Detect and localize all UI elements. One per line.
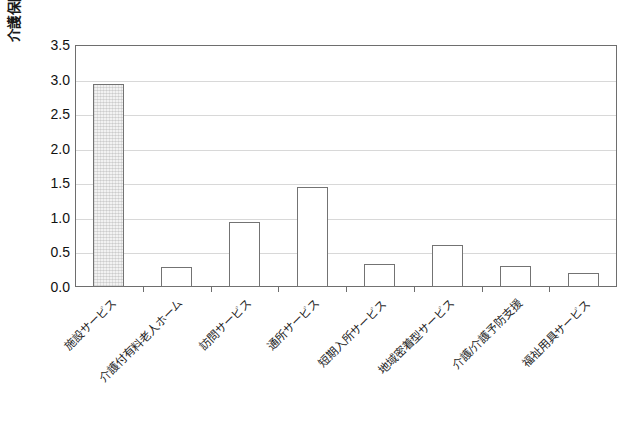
bar-chart: 介護保険費用（兆円） 0.00.51.01.52.02.53.03.5 施設サー…: [0, 0, 636, 423]
y-axis-tick-label: 0.5: [36, 244, 70, 260]
bar: [568, 273, 599, 288]
y-axis-tick-label: 3.0: [36, 72, 70, 88]
x-axis-category-label: 施設サービス: [60, 295, 119, 354]
bar: [500, 266, 531, 287]
y-axis-tick-label: 2.5: [36, 106, 70, 122]
x-axis-category-label: 通所サービス: [263, 295, 322, 354]
bar: [93, 84, 124, 287]
bar: [432, 245, 463, 287]
y-axis-tick-label: 2.0: [36, 141, 70, 157]
y-axis-title: 介護保険費用（兆円）: [4, 0, 26, 100]
x-axis-category-label: 福祉用具サービス: [518, 295, 593, 370]
x-axis-category-label: 訪問サービス: [195, 295, 254, 354]
bar: [364, 264, 395, 287]
y-axis-tick-label: 1.0: [36, 210, 70, 226]
y-axis-tick-label: 1.5: [36, 175, 70, 191]
y-axis-title-container: 介護保険費用（兆円）: [0, 40, 24, 290]
y-axis-tick-labels: 0.00.51.01.52.02.53.03.5: [28, 45, 70, 287]
x-axis-category-labels: 施設サービス介護付有料老人ホーム訪問サービス通所サービス短期入所サービス地域密着…: [0, 287, 636, 423]
y-axis-tick-label: 3.5: [36, 37, 70, 53]
bar: [297, 187, 328, 287]
x-axis-category-label: 短期入所サービス: [314, 295, 389, 370]
x-axis-category-label: 介護/介護予防支援: [448, 295, 525, 372]
bars-container: [75, 45, 617, 287]
bar: [161, 267, 192, 287]
bar: [229, 222, 260, 287]
